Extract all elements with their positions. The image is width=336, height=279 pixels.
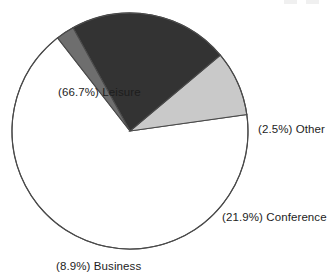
scan-artifact	[306, 0, 319, 4]
scan-artifact	[284, 0, 297, 4]
pie-label-leisure: (66.7%) Leisure	[58, 86, 141, 99]
pie-label-other: (2.5%) Other	[258, 123, 325, 136]
pie-chart-figure: (66.7%) Leisure (2.5%) Other (21.9%) Con…	[0, 0, 336, 279]
pie-label-business: (8.9%) Business	[56, 260, 141, 273]
pie-label-conference: (21.9%) Conference	[222, 211, 327, 224]
pie-chart-canvas	[0, 0, 336, 279]
